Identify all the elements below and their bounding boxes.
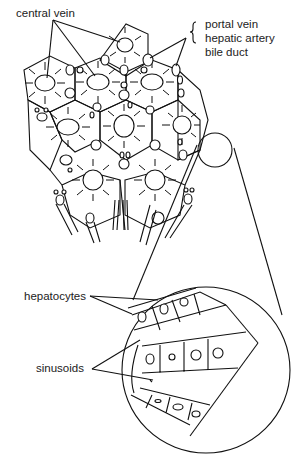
hepatocyte-plates (25, 27, 200, 201)
label-portal-vein: portal vein (205, 18, 258, 31)
label-hepatocytes: hepatocytes (24, 290, 86, 303)
label-hepatic-artery: hepatic artery (205, 32, 275, 45)
hepatocyte-cords (128, 288, 258, 436)
liver-lobule-diagram (0, 0, 304, 459)
leader-lines-bottom (90, 296, 158, 380)
portal-triads (35, 54, 194, 224)
label-bile-duct: bile duct (205, 46, 248, 59)
label-central-vein: central vein (16, 7, 75, 20)
label-sinusoids: sinusoids (36, 362, 84, 375)
